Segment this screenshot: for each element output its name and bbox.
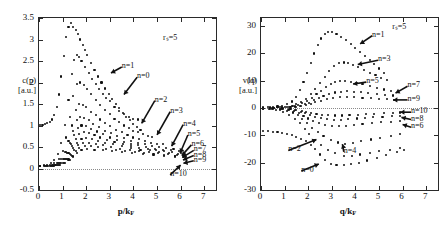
- data-point: [167, 153, 169, 155]
- x-axis-tick-label: 2: [305, 192, 310, 201]
- data-point: [99, 136, 101, 138]
- x-axis-tick-label: 3: [107, 192, 112, 201]
- x-axis-tick: [157, 18, 158, 22]
- data-point: [282, 111, 284, 113]
- data-point: [67, 99, 69, 101]
- data-point: [162, 143, 164, 145]
- x-axis-tick: [285, 18, 286, 22]
- data-point: [75, 109, 77, 111]
- data-point: [132, 136, 134, 138]
- rs-annotation: rₛ=5: [163, 34, 177, 42]
- data-point: [359, 153, 361, 155]
- data-point: [97, 75, 99, 77]
- data-point: [157, 152, 159, 154]
- data-point: [130, 140, 132, 142]
- data-point: [109, 125, 111, 127]
- data-point: [356, 82, 358, 84]
- data-point: [53, 159, 55, 161]
- data-point: [84, 49, 86, 51]
- data-point: [80, 124, 82, 126]
- y-axis-tick-label: 1.5: [2, 99, 34, 108]
- x-axis-tick: [181, 186, 182, 190]
- y-axis-tick: [212, 18, 216, 19]
- data-point: [326, 98, 328, 100]
- data-point: [310, 62, 312, 64]
- y-axis-tick: [434, 26, 438, 27]
- data-point: [334, 81, 336, 83]
- data-point: [156, 143, 158, 145]
- data-point: [332, 97, 334, 99]
- x-axis-tick: [204, 186, 205, 190]
- data-point: [331, 125, 333, 127]
- data-point: [123, 113, 125, 115]
- data-point: [139, 129, 141, 131]
- data-point: [65, 36, 67, 38]
- data-point: [78, 133, 80, 135]
- data-point: [292, 111, 294, 113]
- data-point: [379, 137, 381, 139]
- y-axis-tick: [212, 61, 216, 62]
- data-point: [163, 150, 165, 152]
- data-point: [104, 142, 106, 144]
- data-point: [64, 124, 66, 126]
- data-point: [318, 97, 320, 99]
- data-point: [115, 103, 117, 105]
- data-point: [369, 72, 371, 74]
- data-point: [334, 91, 336, 93]
- data-point: [308, 133, 310, 135]
- data-point: [399, 147, 401, 149]
- data-point: [389, 149, 391, 151]
- data-point: [324, 76, 326, 78]
- data-point: [142, 133, 144, 135]
- data-point: [352, 142, 354, 144]
- data-point: [128, 116, 130, 118]
- data-point: [82, 142, 84, 144]
- data-point: [378, 67, 380, 69]
- data-point: [84, 66, 86, 68]
- x-axis-tick: [86, 186, 87, 190]
- data-point: [376, 87, 378, 89]
- y-axis-tick: [261, 108, 265, 109]
- data-point: [46, 122, 48, 124]
- y-axis-tick: [212, 104, 216, 105]
- scatter-canvas-right: [261, 18, 438, 190]
- data-point: [93, 149, 95, 151]
- data-point: [78, 103, 80, 105]
- data-point: [327, 149, 329, 151]
- data-point: [376, 93, 378, 95]
- data-point: [92, 123, 94, 125]
- data-point: [346, 96, 348, 98]
- zero-reference-line: [39, 169, 216, 170]
- plot-area-left: [38, 17, 217, 191]
- data-point: [291, 100, 293, 102]
- series-label-n-2: n=2: [288, 145, 301, 153]
- data-point: [105, 148, 107, 150]
- data-point: [69, 116, 71, 118]
- data-point: [383, 88, 385, 90]
- data-point: [172, 148, 174, 150]
- series-label-n-7: n=7: [408, 81, 421, 89]
- x-axis-tick: [181, 18, 182, 22]
- data-point: [165, 147, 167, 149]
- data-point: [108, 93, 110, 95]
- x-axis-tick: [379, 186, 380, 190]
- data-point: [77, 33, 79, 35]
- figure-root: c(p) [a.u.] p/kF 012345673.532.521.510.5…: [0, 0, 446, 229]
- data-point: [361, 83, 363, 85]
- data-point: [95, 143, 97, 145]
- data-point: [88, 119, 90, 121]
- x-axis-tick-label: 0: [36, 192, 41, 201]
- data-point: [281, 132, 283, 134]
- data-point: [304, 128, 306, 130]
- data-point: [396, 151, 398, 153]
- data-point: [79, 38, 81, 40]
- data-point: [115, 149, 117, 151]
- data-point: [297, 114, 299, 116]
- y-axis-tick-label: 30: [224, 21, 256, 30]
- data-point: [347, 118, 349, 120]
- data-point: [137, 144, 139, 146]
- data-point: [343, 61, 345, 63]
- data-point: [354, 47, 356, 49]
- y-axis-tick: [39, 169, 43, 170]
- y-axis-tick: [212, 126, 216, 127]
